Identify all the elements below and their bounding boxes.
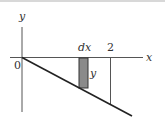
x-axis-label: x bbox=[146, 51, 153, 64]
strip-width-label: dx bbox=[78, 41, 92, 54]
bound-label: 2 bbox=[107, 41, 114, 54]
y-axis-label: y bbox=[18, 10, 26, 23]
function-line bbox=[22, 58, 132, 117]
diagram-svg: y x 0 dx 2 y bbox=[0, 0, 165, 127]
area-strip bbox=[79, 58, 88, 88]
origin-label: 0 bbox=[14, 59, 21, 72]
strip-height-label: y bbox=[89, 67, 97, 80]
diagram-canvas: y x 0 dx 2 y bbox=[0, 0, 165, 127]
